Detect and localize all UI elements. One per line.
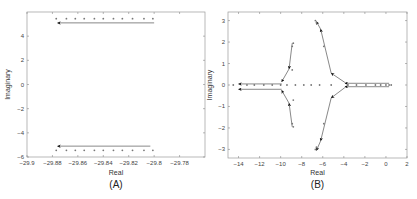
pole-marker — [356, 84, 358, 86]
y-tick-label: −3 — [218, 146, 226, 152]
y-tick-label: −6 — [17, 154, 25, 160]
pole-marker — [74, 18, 76, 20]
x-tick-label: −29.78 — [170, 160, 189, 166]
y-tick-label: 2 — [21, 57, 25, 63]
x-tick-label: −4 — [340, 161, 348, 167]
pole-marker — [316, 146, 318, 148]
pole-marker — [113, 149, 115, 151]
pole-marker — [314, 149, 316, 151]
pole-marker — [102, 18, 104, 20]
pole-marker — [388, 84, 390, 86]
pole-marker — [55, 18, 57, 20]
pole-marker — [292, 126, 294, 128]
pole-marker — [132, 149, 134, 151]
pole-marker — [319, 84, 321, 86]
pole-marker — [292, 99, 294, 101]
x-tick-label: −12 — [254, 161, 265, 167]
x-tick-label: −2 — [361, 161, 369, 167]
y-tick-label: −1 — [218, 103, 226, 109]
x-tick-label: −8 — [298, 161, 306, 167]
y-tick-label: 3 — [222, 18, 226, 24]
pole-marker — [74, 149, 76, 151]
pole-marker — [323, 123, 325, 125]
x-tick-label: −29.86 — [69, 160, 88, 166]
pole-marker — [232, 84, 234, 86]
y-tick-label: −2 — [17, 106, 25, 112]
y-tick-label: 2 — [222, 39, 226, 45]
x-tick-label: 2 — [405, 161, 409, 167]
pole-marker — [143, 149, 145, 151]
pole-marker — [66, 18, 68, 20]
x-axis-label: Real — [310, 169, 325, 176]
pole-marker — [55, 149, 57, 151]
y-tick-label: 0 — [21, 82, 25, 88]
pole-marker — [291, 123, 293, 125]
pole-marker — [102, 149, 104, 151]
pole-marker — [263, 84, 265, 86]
x-tick-label: −29.82 — [119, 160, 138, 166]
pole-marker — [390, 84, 392, 86]
y-tick-label: 4 — [21, 33, 25, 39]
figure-canvas: −29.9−29.88−29.86−29.84−29.82−29.8−29.78… — [0, 0, 417, 199]
pole-marker — [291, 45, 293, 47]
pole-marker — [253, 84, 255, 86]
pole-marker — [380, 84, 382, 86]
x-tick-label: −29.8 — [147, 160, 163, 166]
plot-frame — [27, 12, 205, 157]
y-tick-label: 1 — [222, 61, 226, 67]
pole-marker — [121, 149, 123, 151]
pole-marker — [83, 149, 85, 151]
pole-marker — [286, 84, 288, 86]
pole-marker — [152, 149, 154, 151]
pole-marker — [303, 84, 305, 86]
pole-marker — [132, 18, 134, 20]
x-tick-label: −6 — [319, 161, 327, 167]
x-axis-label: Real — [109, 169, 124, 176]
panel-b-plot: −14−12−10−8−6−4−202−3−2−10123RealImagina… — [206, 12, 409, 190]
pole-marker — [385, 84, 387, 86]
x-tick-label: −29.9 — [19, 160, 35, 166]
pole-marker — [93, 18, 95, 20]
pole-marker — [93, 149, 95, 151]
x-tick-label: −10 — [276, 161, 287, 167]
pole-marker — [294, 84, 296, 86]
pole-marker — [143, 18, 145, 20]
x-tick-label: −29.88 — [43, 160, 62, 166]
pole-marker — [271, 84, 273, 86]
pole-marker — [323, 45, 325, 47]
panel-label: (A) — [109, 179, 122, 190]
y-tick-label: −4 — [17, 130, 25, 136]
pole-marker — [66, 149, 68, 151]
pole-marker — [314, 20, 316, 22]
pole-marker — [310, 84, 312, 86]
pole-marker — [292, 42, 294, 44]
pole-marker — [330, 84, 332, 86]
figure-root: −29.9−29.88−29.86−29.84−29.82−29.8−29.78… — [0, 0, 417, 199]
y-axis-label: Imaginary — [4, 69, 12, 100]
pole-marker — [316, 22, 318, 24]
x-tick-label: −14 — [233, 161, 244, 167]
panel-label: (B) — [311, 179, 324, 190]
pole-marker — [280, 84, 282, 86]
pole-marker — [347, 84, 349, 86]
panel-a-plot: −29.9−29.88−29.86−29.84−29.82−29.8−29.78… — [4, 12, 205, 190]
pole-marker — [83, 18, 85, 20]
pole-marker — [113, 18, 115, 20]
pole-marker — [246, 84, 248, 86]
y-tick-label: −2 — [218, 125, 226, 131]
x-tick-label: −29.84 — [94, 160, 113, 166]
pole-marker — [291, 69, 293, 71]
pole-marker — [152, 18, 154, 20]
pole-marker — [365, 84, 367, 86]
y-axis-label: Imaginary — [206, 69, 214, 100]
pole-marker — [121, 18, 123, 20]
x-tick-label: 0 — [384, 161, 388, 167]
y-tick-label: 0 — [222, 82, 226, 88]
pole-marker — [375, 84, 377, 86]
